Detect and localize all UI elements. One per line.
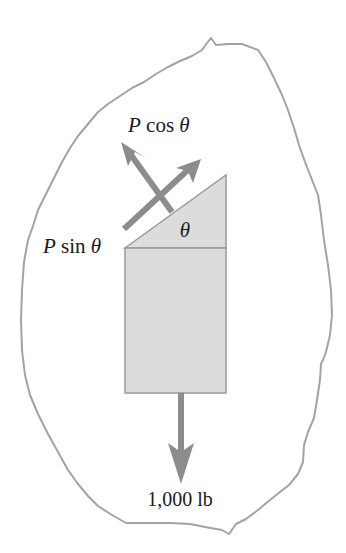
block	[125, 248, 226, 393]
angle-label: θ	[180, 218, 190, 242]
p-cos-label: P cos θ	[127, 113, 190, 137]
p-cos-arrow	[121, 142, 172, 212]
free-body-diagram: P cos θ P sin θ θ 1,000 lb	[0, 0, 346, 553]
weight-arrow	[168, 393, 194, 484]
weight-label: 1,000 lb	[147, 488, 213, 510]
p-sin-label: P sin θ	[42, 234, 101, 258]
